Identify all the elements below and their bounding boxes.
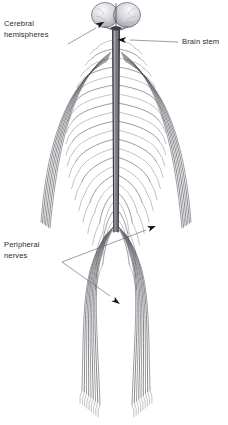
foot-nerve-twig: [150, 390, 152, 403]
spinal-cord-group: [110, 26, 122, 232]
foot-nerve-twig: [84, 394, 86, 407]
spinal-nerve-root: [119, 94, 157, 109]
nerve-twig: [85, 58, 92, 65]
spinal-nerve-root: [79, 149, 113, 172]
leader-line-cerebral-hemispheres: [68, 28, 96, 44]
spinal-nerve-root: [119, 76, 152, 89]
label-line-1: Cerebral: [4, 19, 34, 28]
arm-nerve-strand: [125, 61, 191, 222]
foot-nerve-twig: [91, 399, 93, 412]
right-cerebral-hemisphere: [114, 3, 141, 28]
nerve-twig: [83, 202, 90, 222]
spinal-nerve-root: [119, 194, 132, 223]
foot-nerve-twig: [96, 402, 98, 415]
foot-nerve-twig: [134, 402, 136, 415]
label-line-2: hemispheres: [4, 30, 49, 39]
leader-line-brain-stem: [130, 40, 178, 42]
spinal-nerve-root: [75, 94, 113, 109]
label-peripheral-nerves: Peripheral nerves: [4, 240, 40, 260]
arm-nerve-strand: [122, 54, 184, 228]
foot-nerve-twig: [132, 404, 134, 417]
foot-nerve-twig: [89, 397, 91, 410]
arm-nerve-strand: [49, 54, 111, 228]
foot-nerve-twig: [93, 401, 95, 414]
nerve-twig: [135, 48, 142, 54]
foot-nerve-twig: [139, 399, 141, 412]
nerve-twig: [140, 58, 147, 65]
spinal-nerve-root: [100, 194, 113, 223]
nerve-twig: [137, 213, 144, 234]
leader-arrowhead-peripheral-nerves: [147, 223, 157, 231]
label-cerebral-hemispheres: Cerebral hemispheres: [4, 19, 49, 39]
nerve-twig: [67, 151, 74, 166]
nerve-twig: [159, 130, 166, 143]
spinal-nerve-root: [103, 203, 113, 233]
nerve-twig: [66, 130, 73, 143]
spinal-nerve-root: [119, 203, 129, 233]
spinal-nerve-root: [77, 85, 113, 99]
label-line-1: Brain stem: [182, 37, 219, 46]
foot-nerve-twig: [137, 401, 139, 414]
nerve-twig: [156, 161, 163, 177]
spinal-nerve-root: [90, 176, 113, 203]
arm-nerve-strand: [44, 58, 108, 224]
nerve-twig: [142, 202, 149, 222]
nerve-twig: [158, 151, 165, 166]
arm-nerve-strand: [41, 61, 107, 222]
nerve-twig: [93, 223, 100, 245]
nerve-twig: [144, 69, 151, 77]
label-brain-stem: Brain stem: [182, 37, 219, 46]
foot-nerve-twig: [87, 395, 89, 408]
foot-nerve-twig: [80, 390, 82, 403]
nerve-twig: [146, 192, 153, 211]
spinal-nerve-root: [119, 149, 153, 172]
leader-arrowhead-peripheral-nerves-lower: [111, 297, 121, 307]
nerve-twig: [159, 141, 166, 155]
spinal-nerve-root: [119, 85, 155, 99]
arm-nerve-strand: [122, 55, 185, 226]
spinal-nerve-root: [119, 176, 142, 203]
foot-nerve-twig: [146, 394, 148, 407]
spinal-nerve-root: [119, 185, 137, 213]
nerve-twig: [69, 161, 76, 177]
arm-nerve-strand: [47, 55, 110, 226]
label-leader-lines: [62, 19, 178, 306]
foot-nerve-twig: [143, 395, 145, 408]
spinal-nerve-root: [97, 40, 113, 48]
foot-nerve-twig: [98, 404, 100, 417]
nerve-twig: [150, 182, 157, 200]
nerve-twig: [79, 192, 86, 211]
anatomy-illustration: Cerebral hemispheres Brain stem Peripher…: [0, 0, 228, 425]
nerve-twig: [90, 48, 97, 54]
label-line-2: nerves: [4, 251, 27, 260]
nerve-twig: [66, 141, 73, 155]
nerve-twig: [72, 171, 79, 188]
nerve-twig: [81, 69, 88, 77]
spinal-nerve-root: [95, 185, 113, 213]
foot-nerve-twig: [148, 392, 150, 405]
foot-nerve-twig: [141, 397, 143, 410]
nerve-twig: [153, 171, 160, 188]
arm-nerve-strand: [124, 58, 188, 224]
foot-nerve-twig: [82, 392, 84, 405]
spinal-nerve-root: [80, 76, 113, 89]
nerve-twig: [88, 213, 95, 234]
nervous-system-figure: Cerebral hemispheres Brain stem Peripher…: [0, 0, 228, 425]
nerve-twig: [75, 182, 82, 200]
label-line-1: Peripheral: [4, 240, 40, 249]
